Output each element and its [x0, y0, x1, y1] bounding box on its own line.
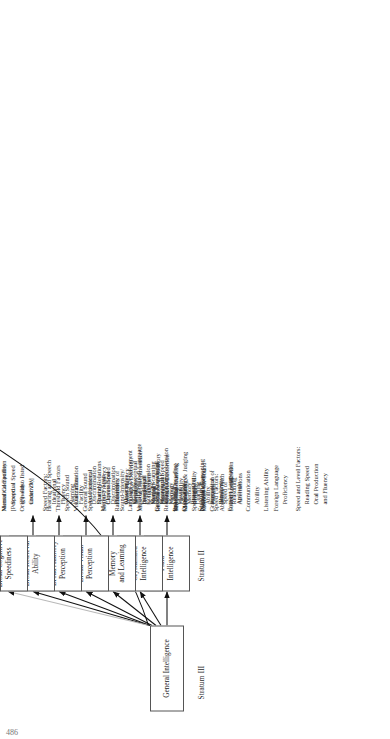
narrow-ability-line: Speed [8, 427, 17, 511]
narrow-ability-line: Patterns [208, 427, 217, 511]
node-broad-visual-perception-line2: Perception [86, 544, 95, 582]
narrow-ability-group: Simple Reaction TimeChoice Reaction Time… [0, 427, 18, 511]
narrow-ability-line: Problems [140, 427, 149, 511]
narrow-ability-line: Memory for Sound [199, 427, 208, 511]
node-general-memory-and-learning-line2: and Learning [118, 539, 127, 587]
stratum-iii-label: Stratum III [198, 665, 206, 699]
narrow-ability-line: under 2V] [26, 427, 35, 511]
narrow-ability-group: Speed and Level Factors:Reading SpeedOra… [293, 427, 329, 511]
narrow-ability-line: Ideational [49, 427, 58, 511]
narrow-ability-line: Facility [76, 427, 85, 511]
narrow-ability-line: Speed Factors: [40, 427, 49, 511]
narrow-ability-line: Naming [67, 427, 76, 511]
node-broad-auditory-perception-line2: Perception [59, 541, 68, 586]
narrow-ability-line: Oral Production [311, 427, 320, 511]
narrow-ability-line: Fluency [112, 427, 121, 511]
narrow-ability-line: Absolute Pitch [217, 427, 226, 511]
narrow-ability-line: Reading Speed [302, 427, 311, 511]
narrow-ability-line: Rhythm [190, 427, 199, 511]
node-broad-cognitive-speediness-line2: Speediness [5, 539, 14, 587]
narrow-ability-line: Fluency [94, 427, 103, 511]
narrow-ability-line: Flexibility [176, 427, 185, 511]
narrow-ability-line: and Fluency [320, 427, 329, 511]
narrow-ability-line: Figural [167, 427, 176, 511]
narrow-ability-line: Word Fluency [122, 427, 131, 511]
rotated-figure-wrapper: Stratum III Stratum II Stratum I General… [0, 0, 390, 739]
figure-page: Stratum III Stratum II Stratum I General… [0, 0, 390, 739]
narrow-ability-line: Speed and Level Factors: [293, 427, 302, 511]
narrow-ability-group: Speed Factors:IdeationalFluencyNamingFac… [40, 427, 186, 511]
node-processing-speed: Processing Speed (RT Decision Speed) [0, 535, 1, 591]
narrow-ability-line: Mental Comparison [0, 427, 8, 511]
page-number: 486 [6, 728, 18, 737]
narrow-ability-line: Expressional [103, 427, 112, 511]
node-fluid-intelligence-line2: Intelligence [167, 546, 176, 580]
hierarchy-connectors [0, 0, 390, 739]
narrow-ability-line: Fluency [58, 427, 67, 511]
node-general-intelligence: General Intelligence [150, 625, 184, 711]
node-crystallized-intelligence-line2: Intelligence [140, 546, 149, 581]
stratum-ii-label: Stratum II [198, 550, 206, 581]
narrow-ability-line: Figural [149, 427, 158, 511]
narrow-ability-line: Sensitivity [131, 427, 140, 511]
narrow-ability-line: Listening Ability [261, 427, 270, 511]
narrow-col-broad-retrieval-ability: Originality/CreativitySpeed Factors:Idea… [17, 427, 190, 511]
node-general-intelligence-label: General Intelligence [163, 639, 172, 697]
narrow-ability-line: Ability [252, 427, 261, 511]
narrow-ability-line: Foreign Language [271, 427, 280, 511]
node-broad-cognitive-speediness: Broad Cognitive Speediness [0, 535, 28, 591]
narrow-ability-line: Fluency [158, 427, 167, 511]
narrow-col-processing-speed: Simple Reaction TimeChoice Reaction Time… [0, 427, 22, 511]
node-broad-retrieval-ability-line2: Ability [32, 540, 41, 586]
narrow-ability-line: Sound Localization [226, 427, 235, 511]
narrow-ability-line: Associational [85, 427, 94, 511]
narrow-ability-line: Proficiency [280, 427, 289, 511]
diagram-canvas: Stratum III Stratum II Stratum I General… [0, 0, 390, 739]
